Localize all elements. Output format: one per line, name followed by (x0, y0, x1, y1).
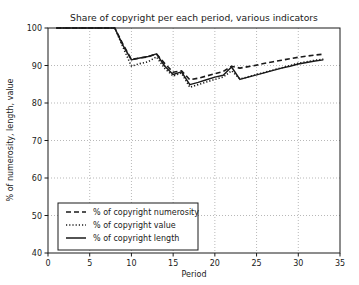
x-tick-label: 5 (87, 259, 92, 268)
legend: % of copyright numerosity% of copyright … (58, 203, 199, 250)
x-axis-label: Period (182, 270, 207, 279)
chart-figure: 405060708090100 05101520253035 Share of … (0, 0, 359, 285)
legend-label-1: % of copyright numerosity (93, 208, 199, 217)
chart-title: Share of copyright per each period, vari… (70, 12, 318, 23)
line-chart: 405060708090100 05101520253035 Share of … (0, 0, 359, 285)
x-tick-label: 20 (210, 259, 220, 268)
y-tick-label: 50 (32, 212, 42, 221)
x-tick-label: 25 (251, 259, 261, 268)
x-tick-label: 10 (126, 259, 136, 268)
y-tick-label: 100 (27, 24, 42, 33)
x-tick-label: 0 (45, 259, 50, 268)
y-tick-label: 90 (32, 62, 42, 71)
legend-label-3: % of copyright length (93, 234, 179, 243)
y-tick-label: 40 (32, 249, 42, 258)
y-tick-label: 70 (32, 137, 42, 146)
x-tick-label: 30 (293, 259, 303, 268)
y-axis-label: % of numerosity, length, value (6, 78, 15, 201)
x-tick-label: 15 (168, 259, 178, 268)
y-tick-label: 60 (32, 174, 42, 183)
y-tick-label: 80 (32, 99, 42, 108)
legend-label-2: % of copyright value (93, 221, 176, 230)
x-tick-label: 35 (335, 259, 345, 268)
